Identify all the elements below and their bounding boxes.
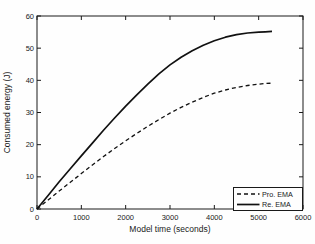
x-axis-label: Model time (seconds) xyxy=(129,224,210,234)
y-tick-label: 60 xyxy=(26,12,34,21)
y-tick-label: 50 xyxy=(26,44,34,53)
x-tick-label: 2000 xyxy=(117,213,134,222)
x-tick-label: 3000 xyxy=(162,213,179,222)
y-tick-label: 20 xyxy=(26,140,34,149)
x-tick-label: 0 xyxy=(35,213,39,222)
y-tick-label: 10 xyxy=(26,172,34,181)
legend-entry-label: Re. EMA xyxy=(262,200,291,209)
y-axis-label: Consumed energy (J) xyxy=(2,71,12,153)
matlab-figure: 01000200030004000500060000102030405060Mo… xyxy=(0,0,315,244)
x-tick-label: 1000 xyxy=(73,213,90,222)
x-tick-label: 5000 xyxy=(250,213,267,222)
y-tick-label: 0 xyxy=(30,205,34,214)
legend-entry-label: Pro. EMA xyxy=(262,190,293,199)
x-tick-label: 4000 xyxy=(206,213,223,222)
x-tick-label: 6000 xyxy=(295,213,312,222)
y-tick-label: 40 xyxy=(26,76,34,85)
line-chart: 01000200030004000500060000102030405060Mo… xyxy=(0,0,315,244)
series-re-ema xyxy=(37,31,272,209)
y-tick-label: 30 xyxy=(26,108,34,117)
